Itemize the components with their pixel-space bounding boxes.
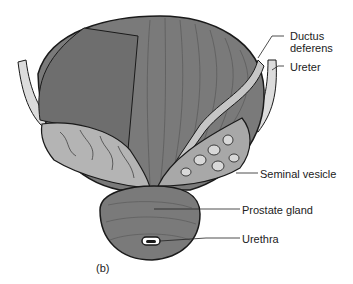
- label-ureter: Ureter: [290, 61, 321, 73]
- panel-label: (b): [96, 262, 109, 274]
- label-urethra: Urethra: [242, 233, 279, 245]
- prostate-gland: [100, 186, 200, 260]
- label-seminal-vesicle: Seminal vesicle: [260, 168, 336, 180]
- label-ductus-line2: deferens: [290, 42, 333, 54]
- label-prostate-gland: Prostate gland: [242, 204, 313, 216]
- label-ductus-line1: Ductus: [290, 30, 333, 42]
- label-ductus-deferens: Ductus deferens: [290, 30, 333, 54]
